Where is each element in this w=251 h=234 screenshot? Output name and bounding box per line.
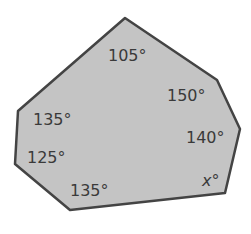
angle-label-top: 105° xyxy=(108,46,147,65)
angle-label-lower-left: 125° xyxy=(27,148,66,167)
heptagon-figure: 105° 150° 140° x° 135° 125° 135° xyxy=(0,0,251,234)
angle-label-unknown-x: x° xyxy=(201,171,219,190)
angle-label-right: 140° xyxy=(186,128,225,147)
angle-label-left: 135° xyxy=(33,110,72,129)
angle-label-bottom: 135° xyxy=(70,181,109,200)
diagram-stage: 105° 150° 140° x° 135° 125° 135° xyxy=(0,0,251,234)
angle-label-upper-right: 150° xyxy=(167,86,206,105)
